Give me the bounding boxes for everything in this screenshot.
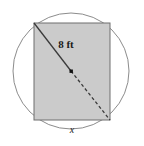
- center-point-marker: [70, 70, 73, 73]
- diagonal-length-label: 8 ft: [58, 38, 74, 50]
- figure-canvas: 8 ft x: [0, 0, 144, 146]
- geometry-figure: 8 ft x: [0, 0, 144, 146]
- base-length-label: x: [69, 124, 75, 135]
